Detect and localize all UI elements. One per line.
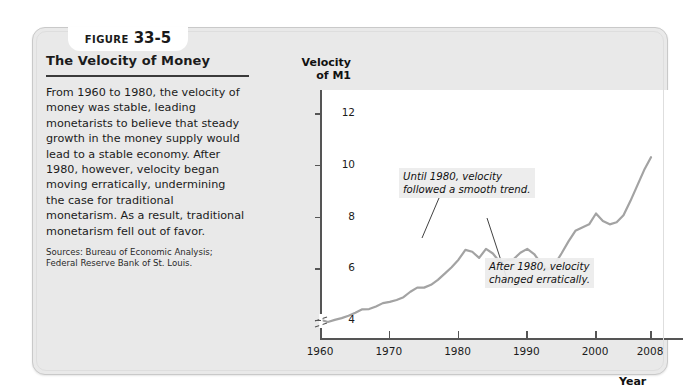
x-tick-label: 2000	[568, 345, 622, 357]
leader-line-smooth-trend	[422, 198, 439, 238]
x-axis-line	[320, 338, 683, 340]
figure-tab: Figure 33-5	[68, 27, 188, 51]
y-axis-title: Velocity of M1	[239, 56, 351, 82]
x-axis-title: Year	[619, 375, 646, 388]
chart-container: Velocity of M1 Until 1980, velocity foll…	[289, 90, 651, 338]
x-tick-label: 1980	[431, 345, 485, 357]
y-axis-title-line1: Velocity	[302, 56, 351, 69]
figure-description: From 1960 to 1980, the velocity of money…	[46, 85, 246, 239]
annotation-erratic: After 1980, velocity changed erratically…	[485, 258, 594, 288]
annotation-smooth-trend: Until 1980, velocity followed a smooth t…	[399, 168, 535, 198]
figure-tab-number: 33-5	[134, 31, 172, 46]
title-divider	[46, 75, 249, 77]
y-axis-title-line2: of M1	[316, 69, 351, 82]
figure-sources: Sources: Bureau of Economic Analysis; Fe…	[46, 247, 246, 269]
figure-tab-word: Figure	[85, 34, 129, 45]
caption-column: The Velocity of Money From 1960 to 1980,…	[46, 53, 254, 269]
figure-title: The Velocity of Money	[46, 53, 254, 68]
plot-area: Until 1980, velocity followed a smooth t…	[321, 90, 683, 338]
x-tick-label: 1990	[499, 345, 553, 357]
x-tick-label: 1960	[293, 345, 347, 357]
figure-card: The Velocity of Money From 1960 to 1980,…	[32, 27, 668, 375]
annotation-leader-lines	[321, 90, 683, 338]
x-tick-label: 2008	[623, 345, 677, 357]
x-tick-label: 1970	[362, 345, 416, 357]
